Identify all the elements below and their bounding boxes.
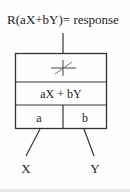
weight-b-label: b — [82, 111, 88, 125]
output-response-label: R(aX+bY)= response — [7, 12, 119, 27]
activation-function-icon — [51, 60, 76, 76]
input-line-y — [84, 129, 94, 156]
neuron-diagram: R(aX+bY)= response aX + bY a b X Y — [0, 0, 130, 192]
weight-a-label: a — [36, 111, 42, 125]
input-line-x — [26, 129, 40, 156]
input-y-label: Y — [90, 161, 100, 176]
weighted-sum-label: aX + bY — [40, 87, 82, 101]
bottom-border — [0, 189, 130, 192]
diagram-canvas: R(aX+bY)= response aX + bY a b X Y — [0, 0, 130, 192]
input-x-label: X — [21, 161, 31, 176]
